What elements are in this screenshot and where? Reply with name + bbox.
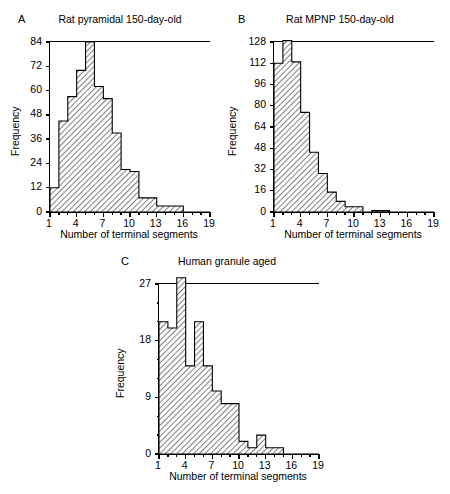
y-tick bbox=[46, 187, 50, 188]
x-minor-tick bbox=[336, 212, 337, 215]
y-tick bbox=[270, 126, 274, 127]
x-minor-tick bbox=[194, 454, 195, 457]
x-minor-tick bbox=[389, 212, 390, 215]
y-tick bbox=[46, 90, 50, 91]
x-minor-tick bbox=[85, 212, 86, 215]
x-minor-tick bbox=[229, 454, 230, 457]
x-minor-tick bbox=[362, 212, 363, 215]
y-tick bbox=[270, 190, 274, 191]
histogram-outline bbox=[50, 42, 210, 212]
figure-root: A Rat pyramidal 150-day-old Frequency Nu… bbox=[0, 0, 450, 494]
panel-a: A Rat pyramidal 150-day-old Frequency Nu… bbox=[0, 10, 222, 245]
panel-a-y-axis-label: Frequency bbox=[9, 86, 21, 156]
x-minor-tick bbox=[147, 212, 148, 215]
y-tick bbox=[270, 84, 274, 85]
x-tick-label: 4 bbox=[66, 218, 86, 228]
x-tick-label: 16 bbox=[281, 460, 301, 470]
y-tick-label: 16 bbox=[232, 184, 266, 194]
panel-c: C Human granule aged Frequency Number of… bbox=[92, 252, 342, 492]
y-tick-label: 48 bbox=[232, 142, 266, 152]
x-tick-label: 1 bbox=[148, 460, 168, 470]
x-minor-tick bbox=[301, 454, 302, 457]
x-minor-tick bbox=[94, 212, 95, 215]
y-tick-label: 32 bbox=[232, 163, 266, 173]
x-minor-tick bbox=[416, 212, 417, 215]
y-tick-label: 84 bbox=[8, 36, 42, 46]
y-minor-tick bbox=[157, 378, 160, 379]
y-tick bbox=[46, 41, 50, 42]
panel-b: B Rat MPNP 150-day-old Frequency Number … bbox=[222, 10, 447, 245]
y-tick bbox=[46, 138, 50, 139]
y-tick-label: 128 bbox=[232, 36, 266, 46]
x-minor-tick bbox=[309, 212, 310, 215]
y-minor-tick bbox=[157, 359, 160, 360]
panel-a-x-axis-label: Number of terminal segments bbox=[44, 228, 214, 240]
x-minor-tick bbox=[283, 454, 284, 457]
x-tick-label: 13 bbox=[255, 460, 275, 470]
x-minor-tick bbox=[174, 212, 175, 215]
y-tick-label: 60 bbox=[8, 84, 42, 94]
y-minor-tick bbox=[157, 434, 160, 435]
y-tick-label: 80 bbox=[232, 99, 266, 109]
x-tick-label: 4 bbox=[175, 460, 195, 470]
x-minor-tick bbox=[256, 454, 257, 457]
panel-c-x-axis-label: Number of terminal segments bbox=[153, 470, 323, 482]
x-minor-tick bbox=[344, 212, 345, 215]
x-minor-tick bbox=[112, 212, 113, 215]
x-minor-tick bbox=[282, 212, 283, 215]
y-tick-label: 64 bbox=[232, 121, 266, 131]
x-tick-label: 13 bbox=[370, 218, 390, 228]
x-minor-tick bbox=[274, 454, 275, 457]
y-tick-label: 9 bbox=[117, 391, 151, 401]
y-tick-label: 0 bbox=[232, 206, 266, 216]
x-minor-tick bbox=[424, 212, 425, 215]
x-tick-label: 19 bbox=[308, 460, 328, 470]
x-minor-tick bbox=[398, 212, 399, 215]
y-tick bbox=[270, 63, 274, 64]
y-tick-label: 112 bbox=[232, 57, 266, 67]
x-minor-tick bbox=[291, 212, 292, 215]
x-tick-label: 10 bbox=[343, 218, 363, 228]
y-tick-label: 12 bbox=[8, 181, 42, 191]
y-tick bbox=[46, 163, 50, 164]
panel-c-letter: C bbox=[121, 256, 129, 267]
x-minor-tick bbox=[192, 212, 193, 215]
y-tick-label: 36 bbox=[8, 133, 42, 143]
panel-c-title: Human granule aged bbox=[142, 256, 312, 267]
x-tick-label: 19 bbox=[199, 218, 219, 228]
y-tick bbox=[270, 148, 274, 149]
y-minor-tick bbox=[157, 321, 160, 322]
histogram-bars bbox=[159, 284, 321, 456]
panel-a-title: Rat pyramidal 150-day-old bbox=[35, 14, 205, 25]
panel-b-plot-area bbox=[273, 41, 434, 213]
y-tick-label: 96 bbox=[232, 78, 266, 88]
x-minor-tick bbox=[318, 212, 319, 215]
y-tick-label: 0 bbox=[8, 206, 42, 216]
y-tick bbox=[270, 105, 274, 106]
y-tick bbox=[155, 283, 159, 284]
histogram-outline bbox=[159, 278, 319, 454]
x-tick-label: 7 bbox=[92, 218, 112, 228]
x-minor-tick bbox=[167, 454, 168, 457]
x-tick-label: 7 bbox=[316, 218, 336, 228]
panel-b-title: Rat MPNP 150-day-old bbox=[255, 14, 425, 25]
x-minor-tick bbox=[247, 454, 248, 457]
x-minor-tick bbox=[309, 454, 310, 457]
x-minor-tick bbox=[200, 212, 201, 215]
x-minor-tick bbox=[176, 454, 177, 457]
panel-b-x-axis-label: Number of terminal segments bbox=[268, 228, 438, 240]
y-tick bbox=[46, 114, 50, 115]
histogram-outline bbox=[274, 41, 434, 212]
x-tick-label: 10 bbox=[228, 460, 248, 470]
x-tick-label: 7 bbox=[201, 460, 221, 470]
x-tick-label: 1 bbox=[39, 218, 59, 228]
histogram-bars bbox=[50, 42, 212, 214]
panel-a-plot-area bbox=[49, 41, 210, 213]
y-tick bbox=[155, 340, 159, 341]
y-tick-label: 18 bbox=[117, 334, 151, 344]
x-minor-tick bbox=[165, 212, 166, 215]
x-minor-tick bbox=[120, 212, 121, 215]
x-tick-label: 16 bbox=[172, 218, 192, 228]
y-tick bbox=[270, 41, 274, 42]
x-tick-label: 13 bbox=[146, 218, 166, 228]
